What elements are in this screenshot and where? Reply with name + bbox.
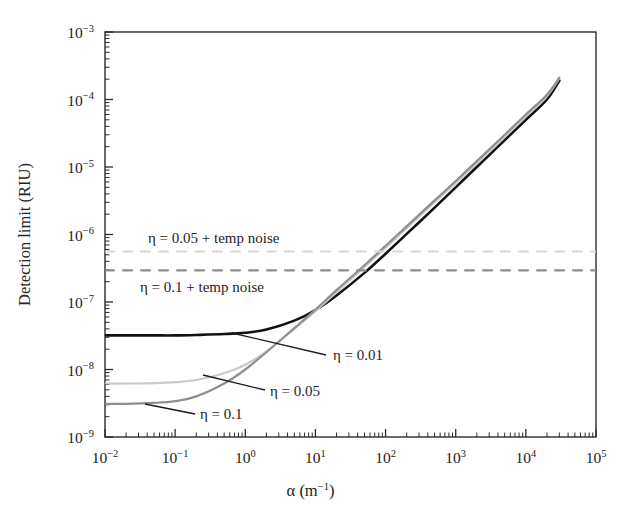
eta-005-label: η = 0.05: [270, 383, 320, 399]
chart-background: [0, 0, 638, 522]
eta-005-temp-noise-label: η = 0.05 + temp noise: [148, 230, 280, 246]
y-axis-title: Detection limit (RIU): [15, 163, 34, 306]
eta-001-label: η = 0.01: [333, 347, 383, 363]
eta-01-label: η = 0.1: [200, 406, 243, 422]
detection-limit-chart: 10−210−1100101102103104105 10−310−410−51…: [0, 0, 638, 522]
eta-01-temp-noise-label: η = 0.1 + temp noise: [140, 279, 264, 295]
figure-container: 10−210−1100101102103104105 10−310−410−51…: [0, 0, 638, 522]
